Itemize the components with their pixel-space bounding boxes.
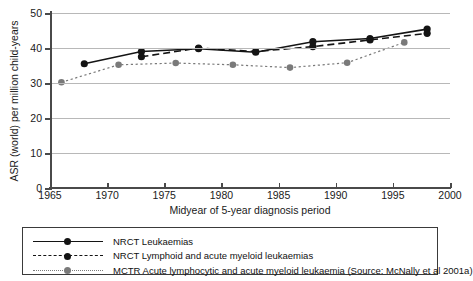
gridline (50, 118, 450, 119)
y-tick-mark (45, 118, 50, 120)
x-axis-title: Midyear of 5-year diagnosis period (50, 204, 450, 216)
data-point (81, 60, 88, 67)
data-point (138, 53, 145, 60)
data-point (172, 60, 179, 67)
x-tick-mark (336, 183, 338, 188)
legend-item: MCTR Acute lymphocytic and acute myeloid… (23, 263, 437, 277)
legend-marker (64, 267, 71, 274)
gridline (50, 153, 450, 154)
gridline (50, 83, 450, 84)
data-point (424, 30, 431, 37)
x-tick-label: 1995 (373, 190, 413, 201)
x-tick-mark (107, 183, 109, 188)
y-axis-line (50, 11, 52, 190)
x-tick-mark (221, 183, 223, 188)
x-tick-label: 1990 (316, 190, 356, 201)
legend-marker (64, 238, 71, 245)
x-tick-label: 2000 (430, 190, 470, 201)
data-point (115, 62, 122, 69)
data-point (401, 39, 408, 46)
x-tick-label: 1980 (201, 190, 241, 201)
x-tick-mark (450, 183, 452, 188)
y-axis-title: ASR (world) per million child-years (8, 16, 20, 186)
x-tick-label: 1985 (259, 190, 299, 201)
y-tick-mark (45, 153, 50, 155)
x-tick-mark (393, 183, 395, 188)
y-tick-mark (45, 48, 50, 50)
legend-key-swatch (33, 264, 103, 276)
data-point (344, 59, 351, 66)
x-tick-mark (164, 183, 166, 188)
y-tick-label: 30 (18, 78, 42, 88)
y-tick-label: 10 (18, 148, 42, 158)
gridline (50, 13, 450, 14)
legend-key-swatch (33, 250, 103, 262)
series-layer (50, 13, 450, 188)
legend-marker (64, 253, 71, 260)
y-tick-mark (45, 13, 50, 15)
legend-item: NRCT Leukaemias (23, 234, 437, 248)
plot-area (50, 13, 450, 188)
legend-label: MCTR Acute lymphocytic and acute myeloid… (113, 265, 473, 276)
data-point (287, 64, 294, 71)
data-point (230, 62, 237, 69)
y-tick-label: 40 (18, 43, 42, 53)
data-point (366, 36, 373, 43)
gridline (50, 48, 450, 49)
legend-label: NRCT Lymphoid and acute myeloid leukaemi… (113, 250, 313, 261)
x-tick-label: 1970 (87, 190, 127, 201)
y-tick-mark (45, 83, 50, 85)
x-tick-mark (50, 183, 52, 188)
chart-legend: NRCT LeukaemiasNRCT Lymphoid and acute m… (22, 227, 438, 275)
x-tick-label: 1975 (144, 190, 184, 201)
y-tick-label: 50 (18, 8, 42, 18)
legend-item: NRCT Lymphoid and acute myeloid leukaemi… (23, 249, 437, 263)
data-point (309, 43, 316, 50)
x-tick-label: 1965 (30, 190, 70, 201)
legend-key-swatch (33, 235, 103, 247)
x-tick-mark (279, 183, 281, 188)
y-tick-label: 20 (18, 113, 42, 123)
series-line (84, 29, 427, 64)
legend-label: NRCT Leukaemias (113, 236, 193, 247)
